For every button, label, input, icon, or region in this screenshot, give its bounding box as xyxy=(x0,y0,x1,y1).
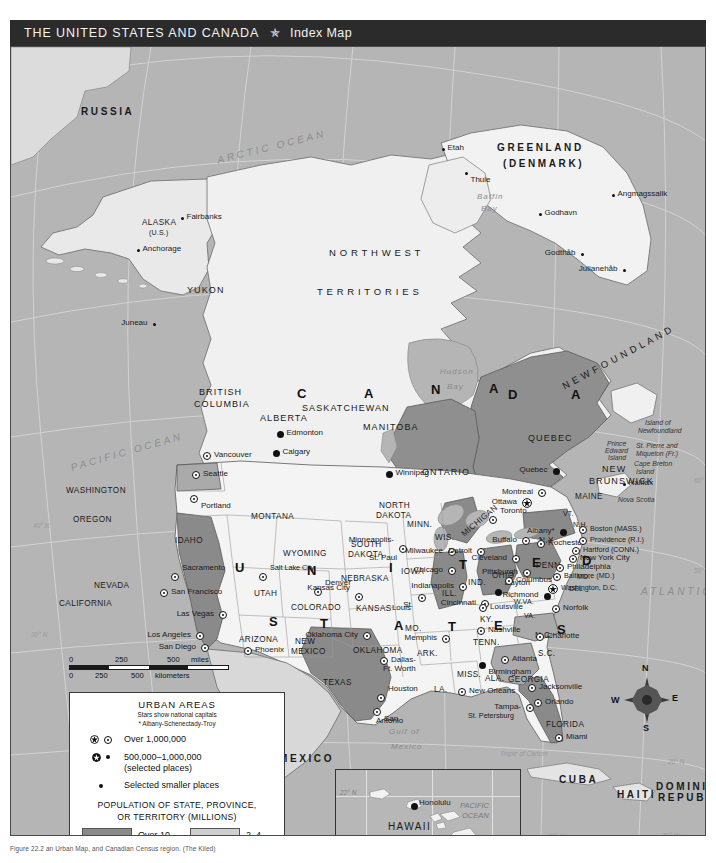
scale-miles-ticks: 0 250 500 miles xyxy=(69,655,229,665)
capital-star-open-icon xyxy=(92,753,101,762)
scale-bar: 0 250 500 miles 0 250 500 kilometers xyxy=(69,655,229,681)
map-page: THE UNITED STATES AND CANADA ✯ Index Map xyxy=(0,0,716,863)
star-capital-icon: ✯ xyxy=(270,27,281,39)
title-bar: THE UNITED STATES AND CANADA ✯ Index Map xyxy=(10,20,706,46)
legend-note-capitals: Stars show national capitals xyxy=(78,711,276,719)
capital-star-icon xyxy=(90,735,99,744)
legend-label-500k-1m: 500,000–1,000,000 (selected places) xyxy=(124,752,202,775)
scale-km-ticks: 0 250 500 kilometers xyxy=(69,671,229,681)
legend-note-albany: * Albany-Schenectady-Troy xyxy=(78,720,276,728)
scale-bar-graphic xyxy=(69,665,229,670)
hawaii-islands xyxy=(336,770,521,836)
figure-caption: Figure 22.2 an Urban Map, and Canadian C… xyxy=(10,845,216,852)
city-dot-small-icon xyxy=(99,784,103,788)
swatch-label-2-4: 2–4 xyxy=(246,830,276,836)
legend-title: URBAN AREAS xyxy=(78,699,276,710)
legend-label-smaller: Selected smaller places xyxy=(124,780,219,791)
legend-population-title: POPULATION OF STATE, PROVINCE, OR TERRIT… xyxy=(78,800,276,822)
swatch-2-4 xyxy=(190,828,240,836)
legend-row-500k-1m: 500,000–1,000,000 (selected places) xyxy=(78,752,276,775)
legend-label-over-1m: Over 1,000,000 xyxy=(124,734,186,745)
page-title: THE UNITED STATES AND CANADA xyxy=(24,26,259,40)
compass-east-label: E xyxy=(672,693,678,703)
legend-symbols-over-1m xyxy=(78,734,124,745)
map-canvas[interactable]: ARCTIC OCEANPACIFIC OCEANATLANTIC OCEANB… xyxy=(10,46,706,836)
swatch-over-10 xyxy=(82,828,132,836)
compass-rose: N E S W xyxy=(608,661,686,739)
compass-south-label: S xyxy=(643,723,649,733)
swatch-label-over-10: Over 10 xyxy=(138,830,190,836)
legend-symbols-smaller xyxy=(78,780,124,791)
compass-north-label: N xyxy=(642,663,649,673)
legend-symbols-500k-1m xyxy=(78,752,124,763)
compass-west-label: W xyxy=(611,695,620,705)
city-dot-filled-icon xyxy=(106,755,110,759)
legend-row-smaller: Selected smaller places xyxy=(78,780,276,791)
index-map-label: Index Map xyxy=(290,26,352,40)
hawaii-inset[interactable]: 22° N 20° N 160° W 158° W 156° W Honolul… xyxy=(335,769,521,836)
legend-row-over-1m: Over 1,000,000 xyxy=(78,734,276,745)
map-legend[interactable]: URBAN AREAS Stars show national capitals… xyxy=(69,692,285,836)
city-ring-filled-icon xyxy=(104,736,112,744)
legend-population-swatches: Over 10 2–4 4–10 Under 2 xyxy=(78,828,276,836)
